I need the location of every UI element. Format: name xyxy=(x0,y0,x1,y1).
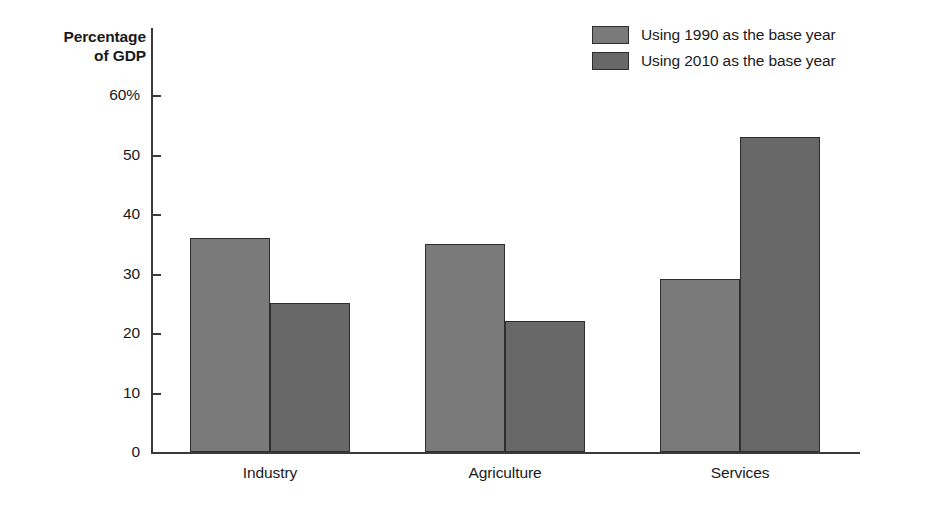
legend: Using 1990 as the base year Using 2010 a… xyxy=(592,22,836,74)
legend-label-series-1: Using 1990 as the base year xyxy=(641,26,836,44)
y-axis-tick-label: 60% xyxy=(20,87,140,103)
legend-label-series-2: Using 2010 as the base year xyxy=(641,52,836,70)
y-axis-tick-label: 30 xyxy=(20,266,140,282)
legend-swatch-series-1 xyxy=(592,26,629,44)
bar xyxy=(740,137,820,452)
legend-swatch-series-2 xyxy=(592,52,629,70)
bar xyxy=(190,238,270,452)
legend-item: Using 1990 as the base year xyxy=(592,22,836,48)
x-axis-label-services: Services xyxy=(630,464,850,482)
y-axis-tick-label: 0 xyxy=(20,444,140,460)
bar xyxy=(505,321,585,452)
x-axis-label-industry: Industry xyxy=(160,464,380,482)
y-axis-tick-label: 10 xyxy=(20,385,140,401)
bar xyxy=(425,244,505,452)
y-axis-tick-label: 50 xyxy=(20,147,140,163)
bar xyxy=(660,279,740,452)
bar-chart: Percentage of GDP 0102030405060% Industr… xyxy=(0,0,929,511)
y-axis-tick-label: 20 xyxy=(20,325,140,341)
legend-item: Using 2010 as the base year xyxy=(592,48,836,74)
y-axis-title: Percentage of GDP xyxy=(0,27,146,65)
x-axis-label-agriculture: Agriculture xyxy=(395,464,615,482)
bar xyxy=(270,303,350,452)
y-axis-tick-label: 40 xyxy=(20,206,140,222)
plot-area xyxy=(152,28,860,453)
